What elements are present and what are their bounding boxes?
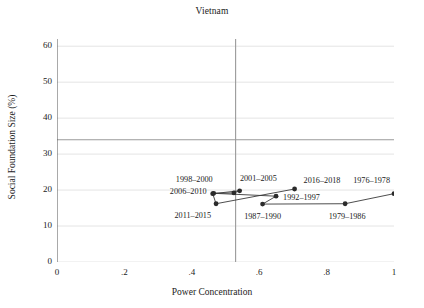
x-tick-label: .8 <box>307 268 347 277</box>
chart-figure: Vietnam 0102030405060 0.2.4.6.81 Power C… <box>0 0 424 308</box>
data-point-label: 1976–1978 <box>0 177 390 185</box>
y-tick-label: 60 <box>26 41 52 50</box>
data-point[interactable] <box>232 191 237 196</box>
x-tick-label: .2 <box>104 268 144 277</box>
y-tick-label: 30 <box>26 149 52 158</box>
data-point[interactable] <box>237 188 242 193</box>
y-tick-label: 10 <box>26 221 52 230</box>
data-point-label: 1992–1997 <box>283 194 320 202</box>
data-point-label: 2011–2015 <box>0 212 211 220</box>
reference-lines <box>57 39 394 262</box>
x-tick-label: 1 <box>374 268 414 277</box>
data-point[interactable] <box>292 187 297 192</box>
y-axis-tick-labels: 0102030405060 <box>14 0 52 308</box>
x-tick-label: 0 <box>37 268 77 277</box>
data-point[interactable] <box>392 191 394 196</box>
x-axis-title: Power Concentration <box>0 287 424 297</box>
gridlines <box>57 46 394 262</box>
y-tick-label: 0 <box>26 257 52 266</box>
x-axis-tick-labels: 0.2.4.6.81 <box>0 268 424 282</box>
scatter-plot-svg <box>57 39 394 262</box>
data-point[interactable] <box>210 191 215 196</box>
plot-area <box>57 39 394 262</box>
data-point[interactable] <box>260 202 265 207</box>
axis-lines <box>57 39 394 262</box>
data-point-label: 1979–1986 <box>307 213 387 221</box>
y-tick-label: 40 <box>26 113 52 122</box>
data-point-label: 2006–2010 <box>0 188 207 196</box>
page-title: Vietnam <box>0 6 424 16</box>
y-tick-label: 50 <box>26 77 52 86</box>
y-axis-title: Social Foundation Size (%) <box>7 77 17 217</box>
x-tick-label: .4 <box>172 268 212 277</box>
x-tick-label: .6 <box>239 268 279 277</box>
data-point[interactable] <box>274 194 279 199</box>
data-point[interactable] <box>214 201 219 206</box>
data-point[interactable] <box>343 201 348 206</box>
data-point-label: 1987–1990 <box>223 213 303 221</box>
